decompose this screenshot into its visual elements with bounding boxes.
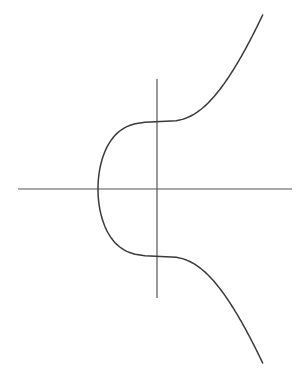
elliptic-curve-diagram bbox=[0, 0, 302, 381]
